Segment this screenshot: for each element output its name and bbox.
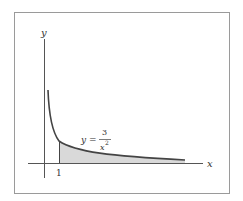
equation-label: y = 3 x 2 [80, 128, 111, 152]
y-axis-label: y [40, 27, 47, 38]
equation-exponent: 2 [105, 139, 109, 146]
tick-label-1: 1 [56, 168, 62, 178]
x-axis-label: x [207, 158, 213, 169]
diagram-canvas: y x 1 y = 3 x 2 [0, 0, 243, 201]
equation-numerator: 3 [102, 128, 107, 137]
equation-lhs: y = [80, 135, 97, 145]
figure-frame [15, 13, 230, 194]
